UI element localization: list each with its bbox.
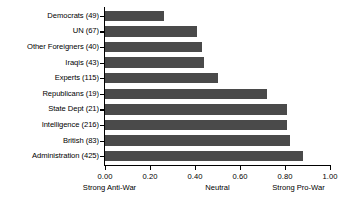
bar — [105, 120, 287, 131]
category-label: UN (67) — [0, 27, 99, 35]
y-axis-tick — [100, 47, 104, 48]
anchor-label: Strong Anti-War — [50, 183, 170, 192]
x-axis-tick-label: 0.80 — [265, 172, 305, 181]
category-label: Republicans (19) — [0, 90, 99, 98]
x-axis-tick — [240, 166, 241, 170]
bar — [105, 26, 197, 37]
y-axis-tick — [100, 125, 104, 126]
category-axis-labels: Democrats (49)UN (67)Other Foreigners (4… — [0, 8, 102, 164]
x-axis-tick-label: 0.00 — [85, 172, 125, 181]
x-axis-tick-label: 1.00 — [310, 172, 350, 181]
category-label: Democrats (49) — [0, 12, 99, 20]
category-label: British (83) — [0, 137, 99, 145]
bar-chart: Democrats (49)UN (67)Other Foreigners (4… — [0, 0, 354, 204]
bar — [105, 89, 267, 100]
category-label: Other Foreigners (40) — [0, 43, 99, 51]
category-label: Experts (115) — [0, 74, 99, 82]
bar — [105, 135, 290, 146]
y-axis-tick — [100, 63, 104, 64]
category-label: Intelligence (216) — [0, 121, 99, 129]
plot-area — [105, 8, 330, 164]
bar — [105, 151, 303, 162]
bar — [105, 42, 202, 53]
y-axis-tick — [100, 141, 104, 142]
bar — [105, 57, 204, 68]
y-axis-line — [104, 7, 105, 166]
y-axis-tick — [100, 156, 104, 157]
bar — [105, 11, 164, 22]
x-axis-tick-label: 0.40 — [175, 172, 215, 181]
x-axis-tick — [330, 166, 331, 170]
x-axis-tick-label: 0.20 — [130, 172, 170, 181]
x-axis-tick — [195, 166, 196, 170]
y-axis-tick — [100, 78, 104, 79]
x-axis-tick-label: 0.60 — [220, 172, 260, 181]
x-axis-tick — [105, 166, 106, 170]
y-axis-tick — [100, 109, 104, 110]
y-axis-tick — [100, 94, 104, 95]
category-label: Iraqis (43) — [0, 59, 99, 67]
anchor-label: Strong Pro-War — [239, 183, 354, 192]
x-axis-line — [104, 165, 331, 166]
y-axis-tick — [100, 31, 104, 32]
category-label: State Dept (21) — [0, 105, 99, 113]
x-axis-tick — [150, 166, 151, 170]
category-label: Administration (425) — [0, 152, 99, 160]
x-axis-tick — [285, 166, 286, 170]
bar — [105, 104, 287, 115]
y-axis-tick — [100, 16, 104, 17]
bar — [105, 73, 218, 84]
